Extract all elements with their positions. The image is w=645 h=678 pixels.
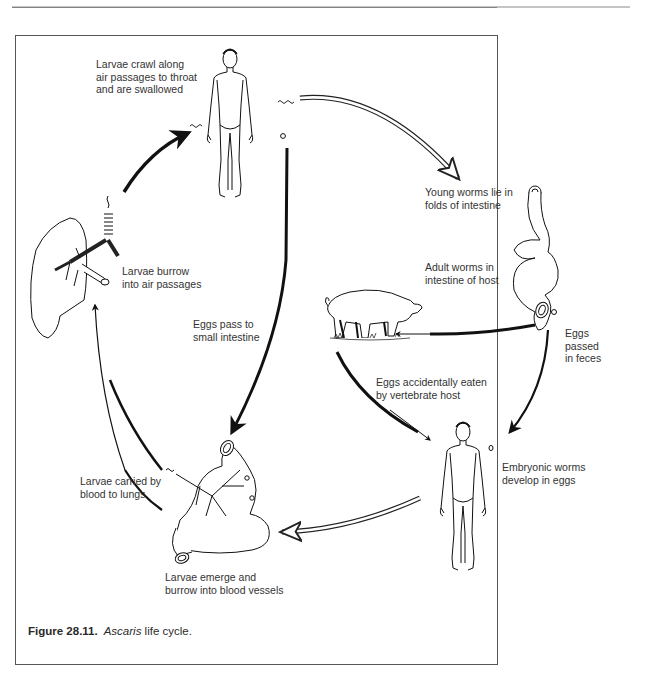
label-embryonic: Embryonic worms develop in eggs [502,461,585,486]
lungs-icon [31,196,118,338]
human-figure-icon [440,422,485,570]
label-eggs-feces: Eggs passed in feces [565,327,601,365]
label-larvae-carried: Larvae carried by blood to lungs [80,475,161,500]
egg-icon [489,445,493,450]
worm-icon [190,125,202,128]
intestine-icon [513,186,558,330]
human-figure-icon [207,49,252,197]
label-eggs-pass-small: Eggs pass to small intestine [193,318,260,343]
label-young-worms: Young worms lie in folds of intestine [425,186,513,211]
intestine-blood-vessels-icon [166,438,269,565]
life-cycle-diagram [0,0,645,678]
label-eggs-eaten: Eggs accidentally eaten by vertebrate ho… [376,376,487,401]
figure-number: Figure 28.11. [28,625,98,637]
label-larvae-emerge: Larvae emerge and burrow into blood vess… [165,571,283,596]
figure-caption: Figure 28.11.Ascaris life cycle. [28,625,192,637]
label-larvae-burrow-air: Larvae burrow into air passages [122,265,201,290]
pig-icon [325,290,422,340]
label-adult-worms: Adult worms in intestine of host [425,261,499,286]
figure-title-rest: life cycle. [141,625,192,637]
egg-icon [281,134,286,139]
figure-species: Ascaris [104,625,142,637]
label-larvae-crawl: Larvae crawl along air passages to throa… [96,58,197,96]
worm-icon [278,101,294,104]
